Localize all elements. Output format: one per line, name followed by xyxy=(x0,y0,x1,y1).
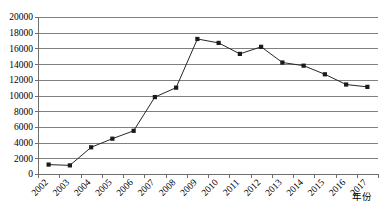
data-point-marker xyxy=(217,41,221,45)
y-tick-label: 20000 xyxy=(9,12,33,22)
y-tick-label: 8000 xyxy=(14,107,33,117)
data-point-marker xyxy=(110,137,114,141)
data-point-marker xyxy=(195,37,199,41)
data-point-marker xyxy=(365,85,369,89)
data-point-marker xyxy=(238,52,242,56)
data-point-marker xyxy=(323,72,327,76)
y-tick-label: 18000 xyxy=(9,28,33,38)
y-tick-label: 0 xyxy=(28,169,33,179)
data-point-marker xyxy=(68,163,72,167)
y-tick-label: 16000 xyxy=(9,44,33,54)
y-tick-label: 12000 xyxy=(9,75,33,85)
y-tick-label: 4000 xyxy=(14,138,33,148)
y-tick-label: 10000 xyxy=(9,91,33,101)
data-point-marker xyxy=(174,86,178,90)
x-axis-title: 年份 xyxy=(352,191,372,202)
data-point-marker xyxy=(153,95,157,99)
data-point-marker xyxy=(47,162,51,166)
data-point-marker xyxy=(259,45,263,49)
y-tick-label: 2000 xyxy=(14,154,33,164)
data-point-marker xyxy=(302,64,306,68)
data-point-marker xyxy=(344,82,348,86)
y-tick-label: 6000 xyxy=(14,122,33,132)
data-point-marker xyxy=(89,145,93,149)
data-point-marker xyxy=(280,60,284,64)
chart-canvas: 0200040006000800010000120001400016000180… xyxy=(0,0,392,216)
y-tick-label: 14000 xyxy=(9,60,33,70)
line-chart: 0200040006000800010000120001400016000180… xyxy=(0,0,392,216)
data-point-marker xyxy=(132,129,136,133)
